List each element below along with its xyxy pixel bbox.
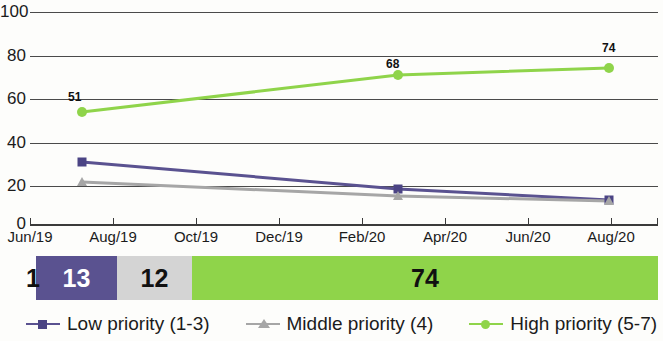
series-plot [0, 0, 663, 248]
bar-segment-74: 74 [192, 256, 658, 300]
marker-low-1 [78, 158, 87, 167]
marker-high-1 [77, 107, 87, 117]
bar-segment-74-label: 74 [411, 266, 439, 291]
data-label-high-1: 51 [68, 90, 81, 104]
legend-marker-triangle-icon [246, 317, 280, 331]
legend-item-middle[interactable]: Middle priority (4) [246, 313, 434, 335]
bar-segment-1-label: 1 [26, 256, 40, 300]
bar-segment-13: 13 [36, 256, 117, 300]
bar-segment-12: 12 [117, 256, 192, 300]
stacked-bar: 13 12 74 1 [30, 256, 658, 300]
chart-legend: Low priority (1-3) Middle priority (4) H… [0, 306, 663, 341]
marker-high-3 [604, 63, 614, 73]
data-label-high-2: 68 [386, 57, 399, 71]
legend-label-low: Low priority (1-3) [67, 313, 210, 335]
legend-item-high[interactable]: High priority (5-7) [469, 313, 657, 335]
series-line-high [82, 68, 609, 112]
legend-label-middle: Middle priority (4) [287, 313, 434, 335]
legend-label-high: High priority (5-7) [510, 313, 657, 335]
bar-segment-12-label: 12 [141, 266, 169, 291]
marker-high-2 [393, 70, 403, 80]
legend-item-low[interactable]: Low priority (1-3) [26, 313, 210, 335]
legend-marker-circle-icon [469, 317, 503, 331]
legend-marker-square-icon [26, 317, 60, 331]
line-chart-area: 100 80 60 40 20 0 Jun/19 Aug/19 Oct/19 D… [0, 0, 663, 248]
bar-segment-13-label: 13 [63, 266, 91, 291]
chart-figure: 100 80 60 40 20 0 Jun/19 Aug/19 Oct/19 D… [0, 0, 663, 341]
data-label-high-3: 74 [602, 41, 615, 55]
